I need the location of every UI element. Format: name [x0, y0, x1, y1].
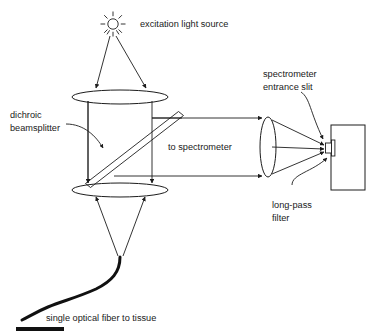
label-to-spectrometer: to spectrometer [168, 142, 232, 152]
leader-entrance-slit [301, 92, 323, 139]
label-single-optical-fiber: single optical fiber to tissue [46, 313, 156, 323]
long-pass-filter [332, 140, 335, 156]
excitation-light-source-icon [101, 12, 126, 37]
label-dichroic-line2: beamsplitter [10, 123, 60, 133]
scale-bar [16, 327, 64, 331]
upper-lens [72, 90, 168, 104]
rays-to-fiber-tip [96, 197, 145, 256]
label-spectrometer-line1: spectrometer [263, 69, 317, 79]
label-dichroic-line1: dichroic [10, 110, 42, 120]
spectrometer-body [331, 125, 365, 190]
label-spectrometer-line2: entrance slit [263, 82, 313, 92]
optical-schematic-figure: excitation light source dichroic beamspl… [0, 0, 375, 334]
excitation-beam-rays [96, 36, 146, 88]
label-long-pass-line2: filter [272, 213, 289, 223]
leader-long-pass-filter [292, 158, 327, 185]
optical-fiber [22, 257, 120, 320]
collimated-vertical-beam [88, 101, 152, 183]
label-long-pass-line1: long-pass [272, 200, 312, 210]
label-excitation-light-source: excitation light source [140, 19, 228, 29]
lower-lens [72, 183, 168, 197]
entrance-slit [326, 143, 332, 153]
leader-dichroic [66, 124, 103, 148]
